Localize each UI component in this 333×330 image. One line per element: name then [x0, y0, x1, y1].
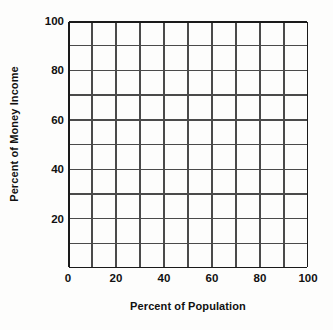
x-axis-tick-labels: 020406080100 — [0, 272, 333, 292]
y-axis-title-text: Percent of Money Income — [8, 66, 20, 202]
x-tick-label: 80 — [254, 272, 267, 284]
x-axis-title: Percent of Population — [68, 300, 308, 312]
y-tick-label: 40 — [30, 163, 64, 175]
y-axis-title: Percent of Money Income — [0, 0, 28, 268]
plot-area — [68, 21, 308, 268]
y-tick-label: 20 — [30, 213, 64, 225]
chart-figure: Percent of Money Income 20406080100 0204… — [0, 0, 333, 330]
x-tick-label: 40 — [158, 272, 171, 284]
y-tick-label: 80 — [30, 64, 64, 76]
y-tick-label: 60 — [30, 114, 64, 126]
x-tick-label: 100 — [298, 272, 317, 284]
x-tick-label: 0 — [65, 272, 71, 284]
grid-svg — [68, 21, 308, 268]
x-tick-label: 60 — [206, 272, 219, 284]
y-tick-label: 100 — [30, 15, 64, 27]
x-tick-label: 20 — [110, 272, 123, 284]
